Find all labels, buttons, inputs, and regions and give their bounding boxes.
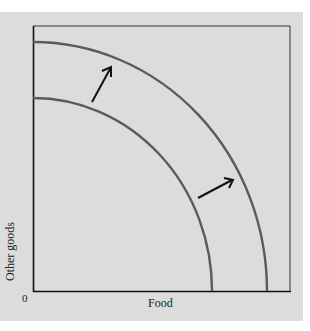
upper-shift-arrow-icon xyxy=(92,67,111,102)
lower-shift-arrow-icon xyxy=(198,178,233,198)
y-axis-label: Other goods xyxy=(3,222,18,281)
shifted-ppf-curve xyxy=(33,42,267,291)
origin-label: 0 xyxy=(22,292,28,304)
x-axis-label: Food xyxy=(148,296,173,311)
original-ppf-curve xyxy=(33,98,212,291)
y-axis-label-container: Other goods xyxy=(3,213,17,283)
ppf-diagram xyxy=(0,0,310,331)
